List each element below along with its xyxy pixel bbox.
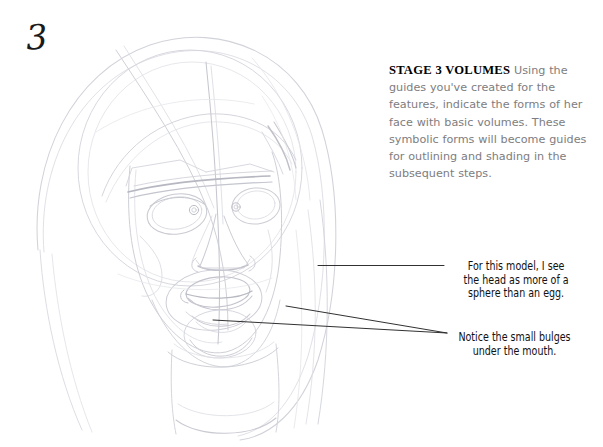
annotation-bulges-note: Notice the small bulges under the mouth. [448,331,581,358]
instruction-heading: STAGE 3 VOLUMES [389,63,510,77]
illustration-page: 3 [0,0,603,447]
instruction-paragraph: STAGE 3 VOLUMES Using the guides you've … [389,62,589,182]
instruction-block: STAGE 3 VOLUMES Using the guides you've … [389,62,589,182]
annotation-sphere-note: For this model, I see the head as more o… [451,260,581,301]
leader-line-bulges-lower [213,320,447,333]
instruction-body: Using the guides you've created for the … [389,64,586,180]
